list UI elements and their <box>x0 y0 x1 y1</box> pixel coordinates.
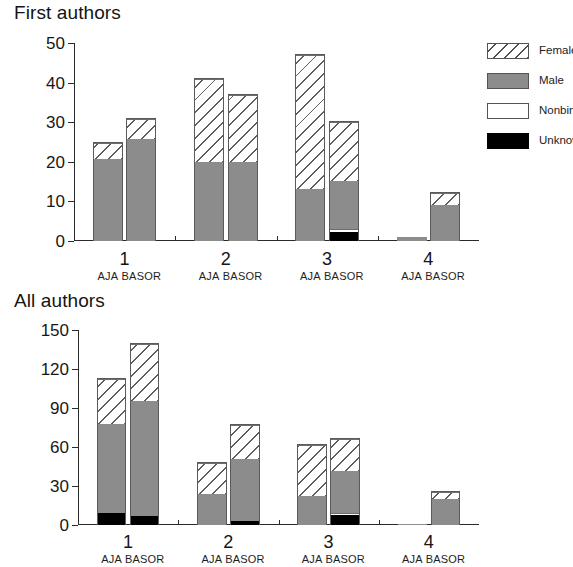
y-tick-label-150: 150 <box>41 322 69 339</box>
x-series-label-basor: BASOR <box>225 554 265 565</box>
y-tick-label-20: 20 <box>46 153 65 170</box>
bar-segment-male <box>398 524 428 526</box>
x-group-label-2: 2 <box>223 533 233 551</box>
bar-segment-male <box>94 159 122 241</box>
bar-segment-female <box>330 122 358 181</box>
y-tick-label-50: 50 <box>46 35 65 52</box>
bar-segment-male <box>131 401 159 516</box>
x-group-separator <box>277 236 278 241</box>
legend-swatch-male-icon <box>487 73 529 89</box>
bar-3-aja <box>297 444 327 525</box>
y-tick-label-30: 30 <box>46 114 65 131</box>
bar-segment-male <box>231 459 259 521</box>
x-group-label-3: 3 <box>324 533 334 551</box>
bar-segment-female <box>298 445 326 496</box>
legend-swatch-unknown-icon <box>487 133 529 149</box>
y-tick-30 <box>68 122 74 123</box>
bar-segment-female <box>94 143 122 159</box>
x-series-label-basor: BASOR <box>223 271 263 282</box>
x-series-label-aja: AJA <box>98 271 119 282</box>
y-axis-top-cap <box>78 330 79 335</box>
panel-all-authors: All authors 0306090120150 1AJABASOR2AJAB… <box>0 288 573 567</box>
bar-segment-female <box>127 119 155 139</box>
x-group-separator <box>279 520 280 525</box>
y-tick-label-120: 120 <box>41 361 69 378</box>
bar-segment-male <box>330 181 358 229</box>
bar-segment-male <box>296 189 324 241</box>
y-axis-line-all <box>78 330 79 525</box>
bar-segment-unknown <box>331 515 359 525</box>
y-tick-30 <box>72 486 78 487</box>
legend-swatch-nonbinary-icon <box>487 103 529 119</box>
bar-1-aja <box>97 378 127 525</box>
x-group-separator <box>178 520 179 525</box>
bar-4-aja <box>397 237 427 241</box>
bar-segment-female <box>432 492 460 499</box>
bar-segment-female <box>231 425 259 460</box>
x-series-label-aja: AJA <box>402 554 423 565</box>
y-tick-40 <box>68 83 74 84</box>
x-series-label-aja: AJA <box>300 271 321 282</box>
x-group-label-3: 3 <box>322 250 332 268</box>
x-group-separator <box>175 236 176 241</box>
y-tick-label-0: 0 <box>60 517 69 534</box>
y-axis-line-first <box>74 43 75 241</box>
legend-label-nonbinary: Nonbinary <box>539 105 573 117</box>
plot-area-first-authors: 01020304050 <box>74 43 479 241</box>
bar-segment-male <box>397 237 427 241</box>
y-tick-label-40: 40 <box>46 74 65 91</box>
y-tick-label-10: 10 <box>46 193 65 210</box>
y-tick-label-60: 60 <box>50 439 69 456</box>
y-tick-0 <box>72 525 78 526</box>
y-tick-90 <box>72 408 78 409</box>
x-series-label-basor: BASOR <box>426 554 466 565</box>
bar-1-basor <box>130 343 160 525</box>
bar-segment-unknown <box>231 521 259 525</box>
bar-3-basor <box>329 121 359 241</box>
bar-1-aja <box>93 142 123 241</box>
y-tick-label-30: 30 <box>50 478 69 495</box>
bar-segment-male <box>198 494 226 525</box>
legend-label-male: Male <box>539 75 564 87</box>
bar-2-basor <box>230 424 260 525</box>
x-group-label-1: 1 <box>120 250 130 268</box>
bar-segment-female <box>229 95 257 162</box>
bar-segment-male <box>431 205 459 241</box>
y-tick-60 <box>72 447 78 448</box>
x-group-label-4: 4 <box>423 250 433 268</box>
y-tick-10 <box>68 201 74 202</box>
bar-segment-male <box>331 471 359 513</box>
x-series-label-basor: BASOR <box>324 271 364 282</box>
x-group-separator <box>379 520 380 525</box>
panel-title-first-authors: First authors <box>14 2 121 24</box>
x-series-label-aja: AJA <box>302 554 323 565</box>
bar-4-aja <box>398 523 428 525</box>
x-series-label-basor: BASOR <box>122 271 162 282</box>
figure-root: First authors 01020304050 1AJABASOR2AJAB… <box>0 0 573 567</box>
legend-row-male: Male <box>487 73 573 89</box>
bar-segment-male <box>432 499 460 525</box>
x-group-label-1: 1 <box>123 533 133 551</box>
legend-row-unknown: Unknown <box>487 133 573 149</box>
bar-segment-unknown <box>330 232 358 241</box>
bar-segment-female <box>431 193 459 205</box>
bar-segment-male <box>127 139 155 241</box>
x-series-label-aja: AJA <box>201 554 222 565</box>
x-series-label-basor: BASOR <box>125 554 165 565</box>
x-series-label-aja: AJA <box>401 271 422 282</box>
bar-4-basor <box>430 192 460 241</box>
bar-segment-male <box>98 424 126 513</box>
x-series-label-basor: BASOR <box>425 271 465 282</box>
panel-first-authors: First authors 01020304050 1AJABASOR2AJAB… <box>0 0 573 290</box>
bar-segment-unknown <box>131 516 159 525</box>
x-series-label-aja: AJA <box>101 554 122 565</box>
legend-first-authors: Female Male Nonbinary Unknown <box>487 43 573 149</box>
bar-segment-female <box>131 344 159 401</box>
x-group-separator <box>378 236 379 241</box>
bar-4-basor <box>431 491 461 525</box>
bar-3-basor <box>330 438 360 525</box>
bar-segment-male <box>229 162 257 241</box>
bar-2-aja <box>197 462 227 525</box>
bar-3-aja <box>295 54 325 241</box>
bar-segment-female <box>195 79 223 162</box>
